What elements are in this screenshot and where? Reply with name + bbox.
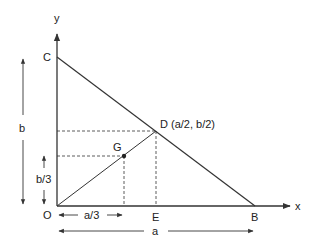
dim-b-label: b xyxy=(19,122,25,134)
median-od xyxy=(57,131,156,206)
dim-a-label: a xyxy=(152,225,159,237)
point-c-label: C xyxy=(43,51,51,63)
dim-a3-label: a/3 xyxy=(84,209,99,221)
point-e-label: E xyxy=(152,211,159,223)
triangle-diagram: y x C O B E G D (a/2, b/2) b b/3 a/3 a xyxy=(0,0,316,248)
point-d-label: D (a/2, b/2) xyxy=(160,118,215,130)
point-b-label: B xyxy=(251,211,258,223)
dim-b3-label: b/3 xyxy=(36,173,51,185)
y-axis-label: y xyxy=(54,12,60,24)
centroid-g-dot xyxy=(122,154,126,158)
point-g-label: G xyxy=(113,141,122,153)
x-axis-label: x xyxy=(295,200,301,212)
point-o-label: O xyxy=(43,209,52,221)
